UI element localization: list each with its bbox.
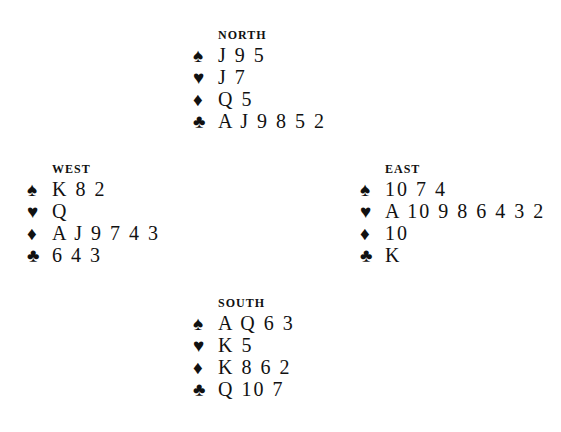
hand-label-north: NORTH — [218, 26, 326, 44]
diamond-icon: ♦ — [193, 89, 218, 111]
diamond-icon: ♦ — [360, 223, 385, 245]
suit-row-diamonds: ♦K 8 6 2 — [193, 356, 295, 378]
cards: A 10 9 8 6 4 3 2 — [385, 200, 545, 222]
suit-row-diamonds: ♦10 — [360, 222, 545, 244]
suit-row-spades: ♠J 9 5 — [193, 44, 326, 66]
cards: Q — [52, 200, 68, 222]
hand-west: WEST ♠K 8 2 ♥Q ♦A J 9 7 4 3 ♣6 4 3 — [27, 160, 160, 266]
suit-row-diamonds: ♦A J 9 7 4 3 — [27, 222, 160, 244]
cards: Q 10 7 — [218, 378, 284, 400]
hand-south: SOUTH ♠A Q 6 3 ♥K 5 ♦K 8 6 2 ♣Q 10 7 — [193, 294, 295, 400]
club-icon: ♣ — [193, 111, 218, 133]
suit-row-spades: ♠K 8 2 — [27, 178, 160, 200]
hand-north: NORTH ♠J 9 5 ♥J 7 ♦Q 5 ♣A J 9 8 5 2 — [193, 26, 326, 132]
suit-row-spades: ♠A Q 6 3 — [193, 312, 295, 334]
spade-icon: ♠ — [193, 45, 218, 67]
cards: K 8 2 — [52, 178, 106, 200]
cards: A J 9 7 4 3 — [52, 222, 160, 244]
cards: J 7 — [218, 66, 247, 88]
spade-icon: ♠ — [360, 179, 385, 201]
cards: J 9 5 — [218, 44, 266, 66]
club-icon: ♣ — [193, 379, 218, 401]
cards: A Q 6 3 — [218, 312, 295, 334]
suit-row-spades: ♠10 7 4 — [360, 178, 545, 200]
spade-icon: ♠ — [193, 313, 218, 335]
heart-icon: ♥ — [193, 335, 218, 357]
diamond-icon: ♦ — [193, 357, 218, 379]
suit-row-clubs: ♣6 4 3 — [27, 244, 160, 266]
heart-icon: ♥ — [193, 67, 218, 89]
hand-east: EAST ♠10 7 4 ♥A 10 9 8 6 4 3 2 ♦10 ♣K — [360, 160, 545, 266]
cards: A J 9 8 5 2 — [218, 110, 326, 132]
cards: 10 7 4 — [385, 178, 447, 200]
cards: K — [385, 244, 401, 266]
cards: 10 — [385, 222, 409, 244]
suit-row-hearts: ♥A 10 9 8 6 4 3 2 — [360, 200, 545, 222]
heart-icon: ♥ — [360, 201, 385, 223]
spade-icon: ♠ — [27, 179, 52, 201]
suit-row-clubs: ♣A J 9 8 5 2 — [193, 110, 326, 132]
club-icon: ♣ — [27, 245, 52, 267]
suit-row-clubs: ♣Q 10 7 — [193, 378, 295, 400]
heart-icon: ♥ — [27, 201, 52, 223]
hand-label-west: WEST — [52, 160, 160, 178]
cards: 6 4 3 — [52, 244, 102, 266]
diamond-icon: ♦ — [27, 223, 52, 245]
club-icon: ♣ — [360, 245, 385, 267]
suit-row-hearts: ♥Q — [27, 200, 160, 222]
cards: K 5 — [218, 334, 253, 356]
suit-row-hearts: ♥J 7 — [193, 66, 326, 88]
suit-row-clubs: ♣K — [360, 244, 545, 266]
cards: K 8 6 2 — [218, 356, 291, 378]
suit-row-diamonds: ♦Q 5 — [193, 88, 326, 110]
suit-row-hearts: ♥K 5 — [193, 334, 295, 356]
hand-label-south: SOUTH — [218, 294, 295, 312]
hand-label-east: EAST — [385, 160, 545, 178]
cards: Q 5 — [218, 88, 253, 110]
